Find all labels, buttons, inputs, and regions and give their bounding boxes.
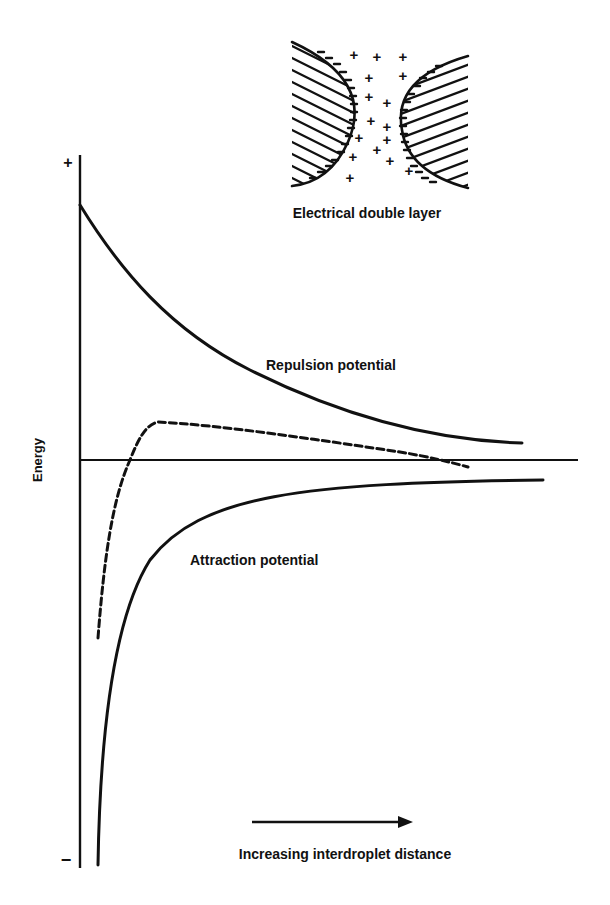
attraction-curve xyxy=(98,480,543,865)
energy-axis-label: Energy xyxy=(30,437,45,482)
positive-energy-sign: + xyxy=(63,154,72,171)
svg-text:+: + xyxy=(386,152,395,169)
svg-text:+: + xyxy=(405,162,414,179)
distance-arrow xyxy=(252,816,413,828)
repulsion-label: Repulsion potential xyxy=(266,357,396,373)
svg-text:+: + xyxy=(399,48,408,65)
svg-text:+: + xyxy=(355,129,364,146)
svg-text:+: + xyxy=(346,169,355,186)
svg-text:+: + xyxy=(373,48,382,65)
svg-text:+: + xyxy=(399,67,408,84)
negative-energy-sign: − xyxy=(61,850,72,870)
x-axis-caption: Increasing interdroplet distance xyxy=(239,846,452,862)
attraction-label: Attraction potential xyxy=(190,552,318,568)
arrow-head-icon xyxy=(398,816,413,828)
svg-text:+: + xyxy=(367,112,376,129)
inset-caption: Electrical double layer xyxy=(293,205,442,221)
svg-text:+: + xyxy=(373,141,382,158)
svg-text:+: + xyxy=(350,46,359,63)
svg-text:+: + xyxy=(365,88,374,105)
energy-diagram: + + + + + + + + + + + + + + + + Electric… xyxy=(0,0,610,905)
repulsion-curve xyxy=(80,205,522,443)
axes: + − Energy xyxy=(30,154,578,870)
svg-text:+: + xyxy=(349,148,358,165)
svg-text:+: + xyxy=(383,131,392,148)
net-potential-curve xyxy=(98,422,468,638)
double-layer-inset: + + + + + + + + + + + + + + + + Electric… xyxy=(280,0,470,221)
svg-text:+: + xyxy=(383,94,392,111)
svg-text:+: + xyxy=(365,69,374,86)
